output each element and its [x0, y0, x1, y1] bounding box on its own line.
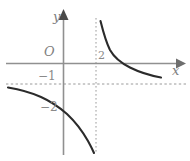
- x-tick-label-two: 2: [98, 50, 105, 61]
- origin-label: O: [44, 45, 55, 58]
- curve-branch-upper-right: [101, 21, 162, 78]
- x-axis-label: x: [172, 64, 179, 77]
- y-axis-label: y: [53, 10, 60, 23]
- y-tick-label-negative-one: −1: [38, 70, 56, 82]
- plot-canvas: [0, 0, 190, 161]
- y-tick-label-negative-two: −2: [40, 101, 58, 113]
- graph-figure: y x O −1 −2 2: [0, 0, 190, 161]
- curve-branch-lower-left: [8, 88, 94, 154]
